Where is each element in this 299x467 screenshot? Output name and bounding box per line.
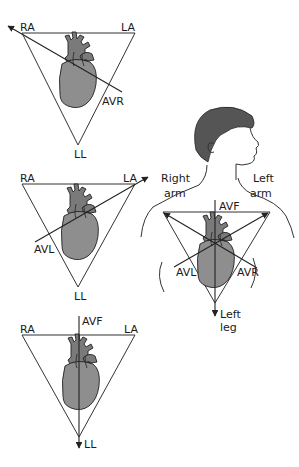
label-left-arm-2: arm (250, 187, 272, 200)
label-avr: AVR (102, 95, 124, 108)
ecg-lead-diagram: RA LA LL AVR RA LA LL AVL RA LA LL AVF (0, 0, 299, 467)
label-ra: RA (20, 172, 35, 185)
panel-avf: RA LA LL AVF (20, 315, 138, 451)
label-la: LA (123, 172, 137, 185)
heart-icon (61, 184, 98, 260)
label-right-arm-2: arm (164, 187, 186, 200)
label-ra: RA (20, 323, 35, 336)
panel-avl: RA LA LL AVL (20, 172, 148, 303)
hair-icon (195, 107, 254, 162)
human-figure: Right arm Left arm AVF AVL AVR Left leg (141, 107, 294, 334)
label-la: LA (124, 323, 138, 336)
label-right-arm-1: Right (161, 172, 191, 185)
heart-icon (62, 334, 99, 410)
label-left-leg-1: Left (220, 308, 241, 321)
left-side-outline (159, 262, 164, 292)
label-avl: AVL (176, 266, 197, 279)
label-avr: AVR (237, 266, 259, 279)
label-left-leg-2: leg (220, 321, 237, 334)
label-avf: AVF (82, 315, 103, 328)
label-ll: LL (84, 438, 97, 451)
panel-avr: RA LA LL AVR (8, 21, 135, 161)
label-la: LA (121, 21, 135, 34)
label-avl: AVL (34, 243, 55, 256)
label-ra: RA (20, 21, 35, 34)
label-ll: LL (74, 290, 87, 303)
label-avf: AVF (219, 200, 240, 213)
label-ll: LL (74, 148, 87, 161)
heart-icon (59, 32, 96, 108)
label-left-arm-1: Left (253, 172, 274, 185)
